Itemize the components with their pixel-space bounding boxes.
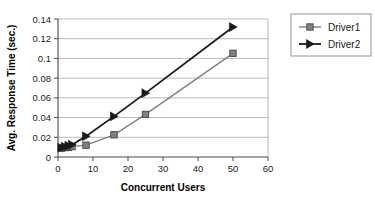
chart-container: 00.020.040.060.080.10.120.14 01020304050… (0, 0, 375, 209)
y-tick-label: 0.02 (33, 132, 52, 143)
y-tick-label: 0.14 (33, 14, 52, 25)
x-tick-label: 60 (263, 163, 274, 174)
x-tick-label: 10 (88, 163, 99, 174)
data-point-marker-square (142, 111, 148, 117)
y-tick-label: 0.06 (33, 92, 52, 103)
legend-border (291, 14, 371, 56)
legend-entry-label: Driver2 (328, 39, 361, 50)
y-axis-title: Avg. Response Time (sec.) (6, 25, 17, 152)
x-tick-label: 0 (55, 163, 60, 174)
x-tick-label: 40 (193, 163, 204, 174)
data-point-marker-square (83, 142, 89, 148)
x-tick-label: 50 (228, 163, 239, 174)
y-tick-label: 0.12 (33, 33, 52, 44)
data-point-marker-square (307, 24, 313, 30)
x-tick-label: 20 (123, 163, 134, 174)
y-tick-label: 0.04 (33, 112, 52, 123)
y-tick-label: 0.08 (33, 73, 52, 84)
chart-legend: Driver1Driver2 (291, 14, 371, 56)
y-tick-label: 0.1 (38, 53, 51, 64)
data-point-marker-square (230, 50, 236, 56)
data-point-marker-square (111, 132, 117, 138)
response-time-line-chart: 00.020.040.060.080.10.120.14 01020304050… (0, 0, 375, 209)
x-axis-title: Concurrent Users (121, 182, 206, 193)
legend-entry-label: Driver1 (328, 22, 361, 33)
y-tick-label: 0 (46, 152, 51, 163)
x-tick-label: 30 (158, 163, 169, 174)
